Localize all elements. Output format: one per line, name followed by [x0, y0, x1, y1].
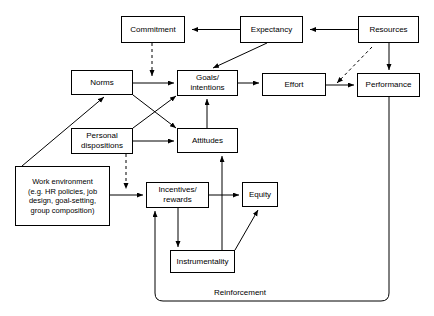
node-personal-dispositions-label: Personaldispositions — [79, 131, 125, 151]
node-work-environment[interactable]: Work environment(e.g. HR policies, jobde… — [15, 166, 110, 226]
node-instrumentality-label: Instrumentality — [174, 257, 230, 267]
node-incentives-rewards-label: Incentives/rewards — [156, 185, 198, 205]
motivation-flow-diagram: Commitment Expectancy Resources Norms Go… — [0, 0, 434, 316]
node-personal-dispositions[interactable]: Personaldispositions — [71, 128, 133, 154]
node-expectancy[interactable]: Expectancy — [240, 16, 303, 43]
node-incentives-rewards[interactable]: Incentives/rewards — [146, 182, 209, 208]
node-work-environment-label: Work environment(e.g. HR policies, jobde… — [26, 177, 99, 215]
node-resources-label: Resources — [367, 25, 409, 35]
node-equity[interactable]: Equity — [242, 182, 278, 207]
node-goals-intentions[interactable]: Goals/intentions — [177, 70, 238, 96]
node-commitment[interactable]: Commitment — [121, 16, 185, 43]
node-attitudes[interactable]: Attitudes — [177, 128, 238, 153]
node-commitment-label: Commitment — [128, 25, 177, 35]
node-effort[interactable]: Effort — [262, 73, 326, 96]
edge-label-reinforcement: Reinforcement — [212, 288, 268, 297]
node-instrumentality[interactable]: Instrumentality — [170, 250, 235, 273]
node-goals-intentions-label: Goals/intentions — [188, 73, 226, 93]
node-attitudes-label: Attitudes — [190, 136, 225, 146]
node-norms[interactable]: Norms — [71, 70, 133, 95]
edge-expectancy-goals — [213, 43, 267, 68]
node-equity-label: Equity — [247, 190, 273, 200]
edge-instrumentality-equity — [235, 210, 258, 250]
node-expectancy-label: Expectancy — [249, 25, 294, 35]
node-performance[interactable]: Performance — [357, 73, 420, 97]
node-norms-label: Norms — [88, 78, 116, 88]
node-effort-label: Effort — [283, 80, 306, 90]
node-resources[interactable]: Resources — [358, 16, 419, 43]
node-performance-label: Performance — [364, 80, 414, 90]
